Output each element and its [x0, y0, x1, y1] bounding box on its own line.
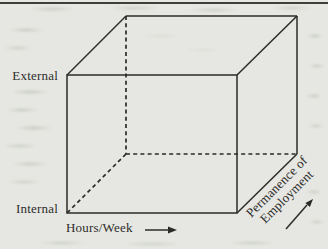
permanence-arrow-shaft [286, 205, 307, 229]
hours-week-arrow [145, 227, 177, 234]
cube-hidden-bottomleft-diagonal [67, 154, 126, 213]
hours-week-arrowhead [168, 227, 177, 234]
cube-edge-topright-diagonal [237, 16, 297, 75]
scanned-page-figure: External Internal Hours/Week Permanence … [0, 0, 328, 249]
cube-edge-topleft-diagonal [67, 16, 126, 75]
internal-axis-label: Internal [9, 202, 58, 216]
hours-week-axis-label: Hours/Week [66, 221, 133, 235]
cube-front-face [67, 75, 237, 213]
external-axis-label: External [9, 69, 58, 83]
permanence-arrow [286, 199, 313, 229]
